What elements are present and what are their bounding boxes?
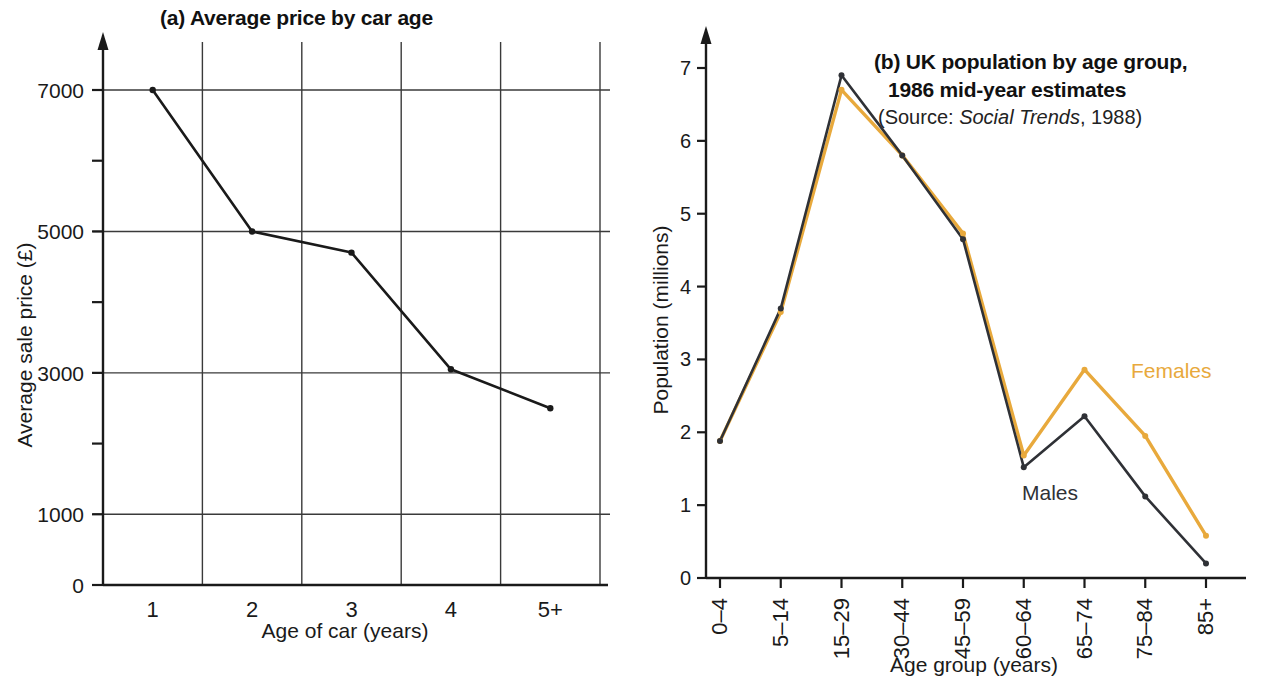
svg-text:0: 0 <box>680 567 691 589</box>
chart-a-x-axis-label: Age of car (years) <box>262 619 429 642</box>
chart-b-females-line <box>720 90 1206 536</box>
chart-a-y-axis-label: Average sale price (£) <box>13 242 36 447</box>
svg-text:2: 2 <box>680 421 691 443</box>
svg-text:30–44: 30–44 <box>889 598 914 659</box>
svg-text:0–4: 0–4 <box>707 598 732 635</box>
svg-text:4: 4 <box>680 276 691 298</box>
chart-panel-b: (b) UK population by age group, 1986 mid… <box>644 0 1288 690</box>
svg-text:15–29: 15–29 <box>829 598 854 659</box>
svg-text:4: 4 <box>445 597 457 622</box>
svg-text:3: 3 <box>680 348 691 370</box>
chart-b-females-points <box>717 87 1209 539</box>
chart-b-females-label: Females <box>1131 359 1212 382</box>
svg-text:5–14: 5–14 <box>768 598 793 647</box>
svg-text:45–59: 45–59 <box>950 598 975 659</box>
chart-b-males-line <box>720 75 1206 563</box>
chart-panel-a: (a) Average price by car age 01000300050… <box>0 0 644 690</box>
chart-b-x-category-labels: 0–45–1415–2930–4445–5960–6465–7475–8485+ <box>707 598 1218 659</box>
chart-b-svg: 01234567 0–45–1415–2930–4445–5960–6465–7… <box>644 0 1288 690</box>
chart-a-data-line <box>153 90 551 408</box>
chart-b-x-axis-label: Age group (years) <box>890 653 1058 676</box>
figure-page: (a) Average price by car age 01000300050… <box>0 0 1288 690</box>
svg-text:3000: 3000 <box>37 362 84 385</box>
svg-text:2: 2 <box>246 597 258 622</box>
svg-text:5+: 5+ <box>538 597 563 622</box>
svg-text:60–64: 60–64 <box>1011 598 1036 659</box>
svg-text:7: 7 <box>680 57 691 79</box>
svg-text:85+: 85+ <box>1193 598 1218 635</box>
chart-a-gridlines <box>93 42 610 585</box>
svg-text:1000: 1000 <box>37 503 84 526</box>
svg-text:5000: 5000 <box>37 220 84 243</box>
svg-text:7000: 7000 <box>37 79 84 102</box>
chart-b-males-points <box>717 72 1209 566</box>
chart-a-y-tick-labels: 01000300050007000 <box>37 79 84 597</box>
svg-text:5: 5 <box>680 203 691 225</box>
svg-text:75–84: 75–84 <box>1132 598 1157 659</box>
svg-text:1: 1 <box>680 494 691 516</box>
svg-text:0: 0 <box>72 574 84 597</box>
svg-text:1: 1 <box>147 597 159 622</box>
svg-text:6: 6 <box>680 130 691 152</box>
chart-a-svg: 01000300050007000 12345+ Average sale pr… <box>0 0 644 690</box>
chart-b-males-label: Males <box>1022 481 1078 504</box>
chart-b-y-axis-label: Population (millions) <box>649 225 672 414</box>
chart-b-y-tick-labels: 01234567 <box>680 57 691 589</box>
chart-a-data-points <box>150 87 554 412</box>
svg-text:65–74: 65–74 <box>1072 598 1097 659</box>
